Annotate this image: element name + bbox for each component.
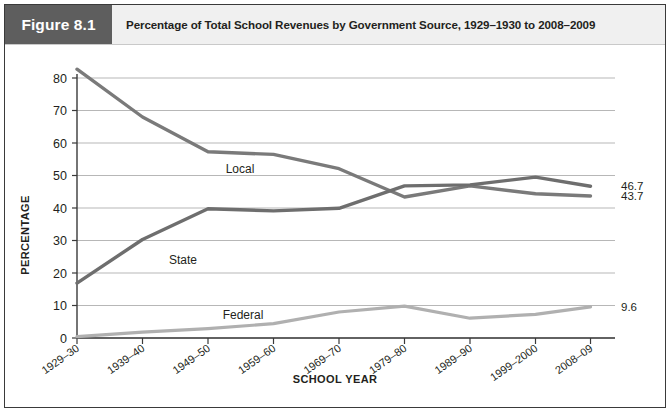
- series-label-federal: Federal: [223, 308, 264, 322]
- line-chart: 01020304050607080 1929–301939–401949–501…: [5, 45, 665, 407]
- figure-frame: Figure 8.1 Percentage of Total School Re…: [4, 4, 666, 408]
- x-axis-tick-label: 1949–50: [170, 342, 212, 376]
- x-axis-tick-label: 1969–70: [301, 342, 343, 376]
- y-axis-tick-label: 0: [60, 332, 67, 346]
- chart-plot-area: 01020304050607080 1929–301939–401949–501…: [5, 45, 665, 408]
- x-axis-tick-label: 1959–60: [236, 342, 278, 376]
- series-end-labels-group: 43.746.79.6: [621, 180, 643, 313]
- series-inline-labels-group: LocalStateFederal: [169, 162, 263, 322]
- figure-caption: Percentage of Total School Revenues by G…: [112, 5, 665, 44]
- series-line-federal: [77, 306, 591, 337]
- y-axis-title: PERCENTAGE: [19, 195, 31, 275]
- y-axis-tick-label: 50: [53, 169, 67, 183]
- x-axis-tick-label: 2008–09: [553, 342, 595, 376]
- x-axis-tick-label: 1989–90: [432, 342, 474, 376]
- y-axis-tick-label: 80: [53, 72, 67, 86]
- y-axis-tick-label: 60: [53, 137, 67, 151]
- data-series-group: [77, 69, 591, 337]
- x-axis-tick-label: 1999–2000: [488, 342, 540, 383]
- y-axis-tick-label: 30: [53, 234, 67, 248]
- figure-header: Figure 8.1 Percentage of Total School Re…: [5, 5, 665, 45]
- end-value-label-federal: 9.6: [621, 301, 637, 313]
- x-axis-tick-label: 1939–40: [105, 342, 147, 376]
- y-axis-tick-label: 10: [53, 299, 67, 313]
- y-axis-tick-label: 40: [53, 202, 67, 216]
- series-label-state: State: [169, 253, 197, 267]
- y-axis-ticks-group: 01020304050607080: [53, 72, 77, 346]
- series-line-local: [77, 69, 591, 197]
- end-value-label-state: 46.7: [621, 180, 643, 192]
- x-axis-title: SCHOOL YEAR: [293, 373, 378, 385]
- series-label-local: Local: [226, 162, 255, 176]
- figure-number-badge: Figure 8.1: [5, 5, 112, 44]
- x-axis-tick-label: 1929–30: [39, 342, 81, 376]
- y-axis-tick-label: 70: [53, 104, 67, 118]
- x-axis-tick-label: 1979–80: [367, 342, 409, 376]
- y-axis-tick-label: 20: [53, 267, 67, 281]
- series-line-state: [77, 177, 591, 283]
